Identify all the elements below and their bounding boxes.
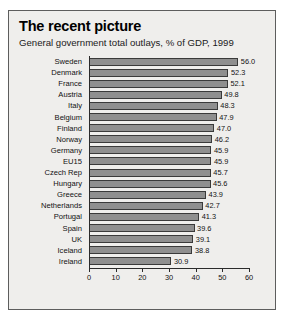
x-tick-label: 0 bbox=[87, 273, 91, 282]
bar bbox=[89, 191, 206, 199]
category-label: Czech Rep bbox=[9, 167, 82, 178]
category-label: Italy bbox=[9, 100, 82, 111]
bar bbox=[89, 91, 222, 99]
value-label: 48.3 bbox=[220, 100, 234, 111]
category-label: Austria bbox=[9, 89, 82, 100]
bar bbox=[89, 135, 212, 143]
x-tick-label: 60 bbox=[245, 273, 253, 282]
x-tick bbox=[222, 268, 223, 272]
value-label: 30.9 bbox=[174, 256, 188, 267]
bar-row: Czech Rep45.7 bbox=[9, 167, 275, 178]
bar bbox=[89, 235, 193, 243]
chart-title: The recent picture bbox=[19, 18, 141, 34]
bar-row: Norway46.2 bbox=[9, 134, 275, 145]
y-axis-line bbox=[89, 56, 90, 268]
bar bbox=[89, 58, 238, 66]
value-label: 46.2 bbox=[215, 134, 229, 145]
bar-row: EU1545.9 bbox=[9, 156, 275, 167]
bar bbox=[89, 180, 211, 188]
bar bbox=[89, 124, 214, 132]
value-label: 45.7 bbox=[213, 167, 227, 178]
bar bbox=[89, 113, 217, 121]
bar-row: Italy48.3 bbox=[9, 100, 275, 111]
x-tick-label: 20 bbox=[138, 273, 146, 282]
category-label: Iceland bbox=[9, 245, 82, 256]
bar-row: Iceland38.8 bbox=[9, 245, 275, 256]
bar bbox=[89, 102, 218, 110]
bar bbox=[89, 69, 228, 77]
x-tick bbox=[89, 268, 90, 272]
category-label: Germany bbox=[9, 145, 82, 156]
bar-row: Finland47.0 bbox=[9, 123, 275, 134]
bar-row: Greece43.9 bbox=[9, 189, 275, 200]
value-label: 45.6 bbox=[213, 178, 227, 189]
category-label: Spain bbox=[9, 223, 82, 234]
value-label: 49.8 bbox=[224, 89, 238, 100]
bar bbox=[89, 80, 228, 88]
bar bbox=[89, 246, 192, 254]
value-label: 42.7 bbox=[205, 200, 219, 211]
category-label: Belgium bbox=[9, 112, 82, 123]
bar-row: France52.1 bbox=[9, 78, 275, 89]
value-label: 39.6 bbox=[197, 223, 211, 234]
x-tick bbox=[116, 268, 117, 272]
value-label: 41.3 bbox=[202, 211, 216, 222]
category-label: EU15 bbox=[9, 156, 82, 167]
category-label: Ireland bbox=[9, 256, 82, 267]
bar bbox=[89, 169, 211, 177]
bar bbox=[89, 157, 211, 165]
bar-row: Austria49.8 bbox=[9, 89, 275, 100]
x-tick bbox=[169, 268, 170, 272]
category-label: UK bbox=[9, 234, 82, 245]
category-label: Greece bbox=[9, 189, 82, 200]
value-label: 56.0 bbox=[241, 56, 255, 67]
value-label: 52.3 bbox=[231, 67, 245, 78]
x-tick bbox=[249, 268, 250, 272]
value-label: 47.9 bbox=[219, 112, 233, 123]
category-label: Sweden bbox=[9, 56, 82, 67]
value-label: 39.1 bbox=[196, 234, 210, 245]
x-tick-label: 50 bbox=[218, 273, 226, 282]
value-label: 52.1 bbox=[230, 78, 244, 89]
bar-row: Netherlands42.7 bbox=[9, 200, 275, 211]
value-label: 38.8 bbox=[195, 245, 209, 256]
bar-row: Belgium47.9 bbox=[9, 112, 275, 123]
bar-row: Hungary45.6 bbox=[9, 178, 275, 189]
category-label: Netherlands bbox=[9, 200, 82, 211]
chart-subtitle: General government total outlays, % of G… bbox=[19, 37, 234, 48]
bar-row: Germany45.9 bbox=[9, 145, 275, 156]
category-label: Finland bbox=[9, 123, 82, 134]
category-label: Denmark bbox=[9, 67, 82, 78]
bar-row: Ireland30.9 bbox=[9, 256, 275, 267]
bar-row: UK39.1 bbox=[9, 234, 275, 245]
category-label: Norway bbox=[9, 134, 82, 145]
bar-row: Denmark52.3 bbox=[9, 67, 275, 78]
value-label: 45.9 bbox=[214, 145, 228, 156]
x-tick-label: 30 bbox=[165, 273, 173, 282]
bar bbox=[89, 146, 211, 154]
plot-area: Sweden56.0Denmark52.3France52.1Austria49… bbox=[9, 56, 275, 308]
bar bbox=[89, 224, 195, 232]
value-label: 43.9 bbox=[209, 189, 223, 200]
bar-row: Sweden56.0 bbox=[9, 56, 275, 67]
bar-row: Spain39.6 bbox=[9, 223, 275, 234]
bar bbox=[89, 213, 199, 221]
x-tick-label: 10 bbox=[112, 273, 120, 282]
x-tick bbox=[142, 268, 143, 272]
value-label: 45.9 bbox=[214, 156, 228, 167]
category-label: Portugal bbox=[9, 211, 82, 222]
value-label: 47.0 bbox=[217, 123, 231, 134]
chart-figure: The recent picture General government to… bbox=[8, 10, 276, 310]
category-label: Hungary bbox=[9, 178, 82, 189]
x-tick-label: 40 bbox=[192, 273, 200, 282]
bar bbox=[89, 202, 203, 210]
bar bbox=[89, 257, 171, 265]
category-label: France bbox=[9, 78, 82, 89]
x-tick bbox=[196, 268, 197, 272]
bar-row: Portugal41.3 bbox=[9, 211, 275, 222]
